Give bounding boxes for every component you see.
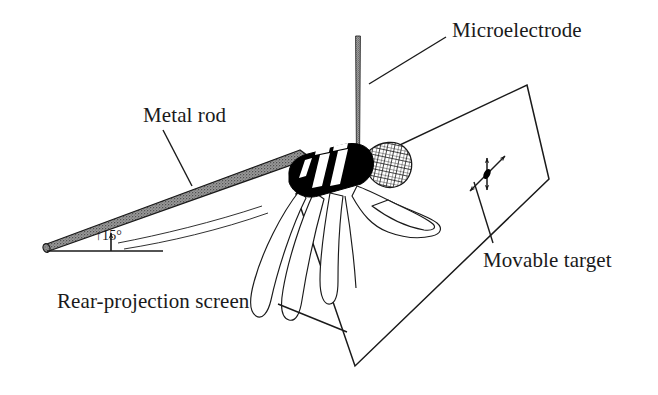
finger-3 [320,193,343,304]
setup-diagram-canvas [0,0,658,395]
leader-movable-target [474,182,493,243]
label-rod-angle: ↑15° [95,229,122,243]
metal-rod-body [44,150,311,251]
microelectrode-needle [356,36,361,158]
microelectrode-shaft [356,36,361,158]
label-movable-target: Movable target [483,250,612,271]
label-metal-rod: Metal rod [143,105,226,126]
figure-root: Microelectrode Metal rod Movable target … [0,0,658,395]
arm-contour-lower [124,213,268,249]
forearm-edge [345,196,356,288]
label-rear-projection-screen: Rear-projection screen [57,291,249,312]
leader-metal-rod [163,130,192,186]
leader-microelectrode [369,37,446,84]
angle-value: 15° [102,228,122,243]
label-microelectrode: Microelectrode [452,20,582,41]
